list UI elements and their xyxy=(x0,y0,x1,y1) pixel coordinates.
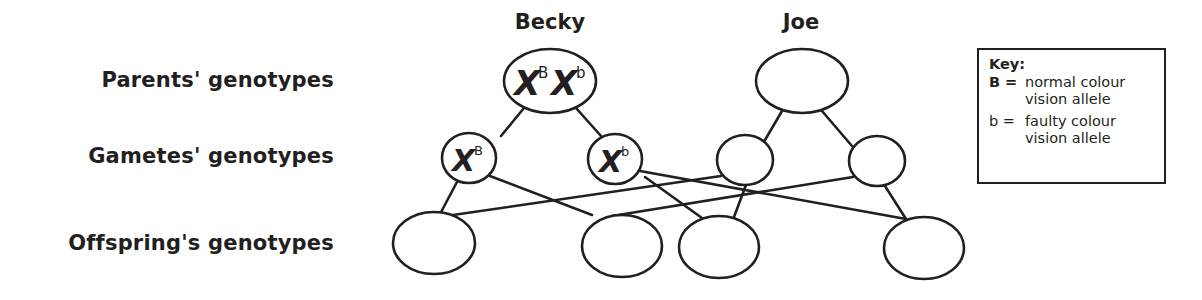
offspring-node-2 xyxy=(582,215,662,277)
offspring-node-4 xyxy=(884,217,964,279)
gamete-2-allele: X xyxy=(597,144,624,179)
line-joe-to-gamete-3 xyxy=(765,111,782,140)
line-becky-to-gamete-2 xyxy=(576,108,601,136)
key-description-normal: normal colour vision allele xyxy=(1025,74,1154,108)
line-becky-to-gamete-1 xyxy=(501,108,524,136)
key-desc-line: normal colour xyxy=(1025,74,1154,91)
key-symbol-B: B = xyxy=(989,74,1025,108)
key-desc-line: faulty colour xyxy=(1025,113,1154,130)
key-symbol-b: b = xyxy=(989,113,1025,147)
key-title: Key: xyxy=(989,56,1154,73)
offspring-node-3 xyxy=(679,216,759,278)
key-desc-line: vision allele xyxy=(1025,91,1154,108)
gamete-node-3 xyxy=(717,135,773,185)
gamete-1-allele-sup: B xyxy=(474,143,483,158)
parent-joe-node xyxy=(756,49,848,113)
becky-allele-1-sup: B xyxy=(538,64,548,82)
line-gamete-3-to-offspring-1 xyxy=(446,176,721,216)
key-entry-faulty: b = faulty colour vision allele xyxy=(989,113,1154,147)
becky-allele-2-sup: b xyxy=(576,64,586,82)
line-gamete-1-to-offspring-1 xyxy=(440,182,457,214)
key-entry-normal: B = normal colour vision allele xyxy=(989,74,1154,108)
gamete-1-allele: X xyxy=(450,143,477,178)
offspring-node-1 xyxy=(393,212,475,274)
gamete-node-4 xyxy=(849,136,905,186)
key-description-faulty: faulty colour vision allele xyxy=(1025,113,1154,147)
line-gamete-4-to-offspring-4 xyxy=(885,186,906,219)
gamete-2-allele-sup: b xyxy=(621,144,629,159)
key-legend: Key: B = normal colour vision allele b =… xyxy=(977,48,1166,184)
line-gamete-1-to-offspring-2 xyxy=(490,176,592,215)
line-joe-to-gamete-4 xyxy=(822,111,852,146)
key-desc-line: vision allele xyxy=(1025,130,1154,147)
becky-allele-2: X xyxy=(549,63,579,103)
